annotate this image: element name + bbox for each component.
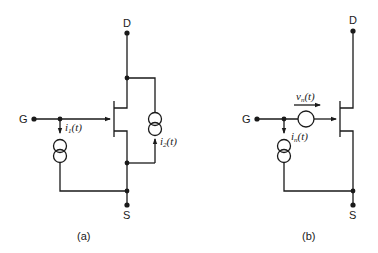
drain-label: D — [123, 17, 131, 29]
drain-label-b: D — [349, 14, 357, 26]
current-source-i1-icon — [54, 140, 67, 163]
i1-bottom-wire — [60, 163, 127, 191]
i1-label: i1(t) — [65, 121, 82, 135]
drain-wire-b — [340, 31, 353, 108]
caption-b: (b) — [302, 230, 315, 242]
source-wire — [114, 131, 127, 205]
source-wire-b — [340, 131, 353, 205]
source-terminal-dot-b — [350, 202, 355, 207]
in-label: in(t) — [291, 130, 308, 144]
gate-terminal-dot-b — [254, 116, 259, 121]
panel-a: G D S i2(t) i1(t) (a) — [19, 17, 177, 242]
gate-label-b: G — [242, 113, 251, 125]
drain-wire — [114, 33, 127, 108]
current-source-in-icon — [278, 140, 291, 163]
voltage-source-vn-icon — [298, 111, 314, 127]
in-bottom-wire — [284, 163, 353, 191]
gate-terminal-dot — [31, 116, 36, 121]
drain-terminal-dot-b — [350, 28, 355, 33]
drain-terminal-dot — [124, 30, 129, 35]
i2-label: i2(t) — [160, 135, 177, 149]
source-label-b: S — [349, 209, 356, 221]
panel-b: G vn(t) D S in(t) (b) — [242, 14, 357, 242]
current-source-i2-icon — [149, 113, 162, 136]
source-terminal-dot — [124, 202, 129, 207]
vn-label: vn(t) — [296, 90, 315, 104]
fet-noise-model-diagram: G D S i2(t) i1(t) (a) — [0, 0, 378, 253]
i2-top-wire — [127, 78, 155, 112]
caption-a: (a) — [77, 230, 90, 242]
gate-label: G — [19, 113, 28, 125]
source-label: S — [123, 209, 130, 221]
